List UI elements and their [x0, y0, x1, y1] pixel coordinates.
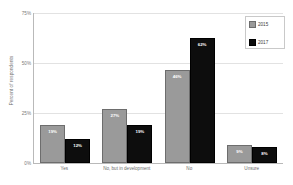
bar-value-label: 8% [253, 151, 276, 156]
y-axis-title: Percent of respondents [9, 39, 14, 123]
legend-label: 2017 [258, 40, 268, 45]
bar-value-label: 12% [66, 143, 89, 148]
bar-2017-unsure[interactable]: 8% [252, 147, 277, 163]
y-tick-label-50: 50% [22, 61, 31, 66]
bar-value-label: 27% [103, 113, 126, 118]
bar-2015-unsure[interactable]: 9% [227, 145, 252, 163]
bar-2017-no-but-in-development[interactable]: 19% [127, 125, 152, 163]
bar-2015-no-but-in-development[interactable]: 27% [102, 109, 127, 163]
bar-value-label: 46% [166, 74, 189, 79]
y-tick-label-25: 25% [22, 111, 31, 116]
bar-value-label: 62% [191, 42, 214, 47]
x-label-no: No [158, 166, 221, 180]
x-label-yes: Yes [33, 166, 96, 180]
y-tick-label-75: 75% [22, 11, 31, 16]
legend-label: 2015 [258, 22, 268, 27]
legend-item-2015[interactable]: 2015 [249, 21, 284, 28]
x-label-no-but-in-development: No, but in development [96, 166, 159, 180]
bar-group-no: 46% 62% [159, 13, 221, 163]
legend-item-2017[interactable]: 2017 [249, 39, 284, 46]
bar-2015-yes[interactable]: 19% [40, 125, 65, 163]
bar-value-label: 9% [228, 149, 251, 154]
legend-swatch-icon [249, 39, 256, 46]
bar-2017-no[interactable]: 62% [190, 38, 215, 163]
legend: 2015 2017 [245, 16, 285, 49]
legend-swatch-icon [249, 21, 256, 28]
bar-group-yes: 19% 12% [34, 13, 96, 163]
bar-group-no-but-in-development: 27% 19% [96, 13, 158, 163]
bar-2015-no[interactable]: 46% [165, 70, 190, 163]
y-tick-label-0: 0% [24, 161, 31, 166]
bar-chart: Percent of respondents 75% 50% 25% 0% 19… [0, 0, 293, 185]
bar-2017-yes[interactable]: 12% [65, 139, 90, 163]
x-label-unsure: Unsure [221, 166, 284, 180]
x-axis-labels: Yes No, but in development No Unsure [33, 166, 283, 180]
bar-value-label: 19% [41, 129, 64, 134]
bar-value-label: 19% [128, 129, 151, 134]
